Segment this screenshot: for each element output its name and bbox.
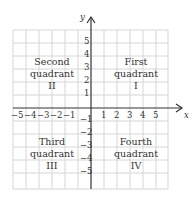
x-tick: 4 xyxy=(140,110,145,120)
y-tick: 4 xyxy=(84,49,89,59)
x-tick: 3 xyxy=(127,110,132,120)
y-tick: −4 xyxy=(80,153,93,163)
x-tick: 1 xyxy=(101,110,106,120)
x-tick: −1 xyxy=(63,110,76,120)
quadrant-word: quadrant xyxy=(104,148,168,160)
quadrant-numeral: I xyxy=(104,80,168,92)
quadrant-name: Third xyxy=(26,136,78,148)
y-axis-label: y xyxy=(80,12,85,22)
quadrant-second-label: Second quadrant II xyxy=(26,56,78,92)
x-axis-label: x xyxy=(184,110,189,120)
quadrant-fourth-label: Fourth quadrant IV xyxy=(104,136,168,172)
quadrant-word: quadrant xyxy=(104,68,168,80)
quadrant-word: quadrant xyxy=(26,148,78,160)
quadrant-name: Fourth xyxy=(104,136,168,148)
quadrant-first-label: First quadrant I xyxy=(104,56,168,92)
y-tick: −2 xyxy=(80,127,93,137)
quadrant-numeral: IV xyxy=(104,160,168,172)
y-tick: 1 xyxy=(84,88,89,98)
y-tick: 5 xyxy=(84,36,89,46)
x-tick: −5 xyxy=(11,110,24,120)
quadrant-numeral: II xyxy=(26,80,78,92)
x-tick: −3 xyxy=(37,110,50,120)
quadrant-third-label: Third quadrant III xyxy=(26,136,78,172)
x-tick: −4 xyxy=(24,110,37,120)
y-tick: −3 xyxy=(80,140,93,150)
y-tick: −1 xyxy=(80,114,93,124)
y-tick: −5 xyxy=(80,166,93,176)
y-tick: 3 xyxy=(84,62,89,72)
quadrant-numeral: III xyxy=(26,160,78,172)
x-tick: 5 xyxy=(153,110,158,120)
x-tick: −2 xyxy=(50,110,63,120)
y-tick: 2 xyxy=(84,75,89,85)
x-tick: 2 xyxy=(114,110,119,120)
quadrant-name: Second xyxy=(26,56,78,68)
quadrant-word: quadrant xyxy=(26,68,78,80)
quadrant-name: First xyxy=(104,56,168,68)
